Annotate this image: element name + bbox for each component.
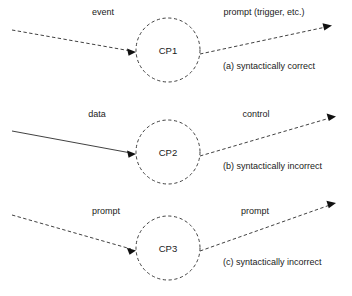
panel-b-caption: (b) syntactically incorrect: [223, 161, 323, 171]
panel-a-caption: (a) syntactically correct: [223, 61, 316, 71]
panel-b-outgoing-edge: [200, 118, 330, 156]
panel-c-caption: (c) syntactically incorrect: [223, 257, 322, 267]
panel-c-incoming-edge: [12, 215, 131, 249]
panel-c: CP3 prompt prompt (c) syntactically inco…: [12, 201, 336, 280]
panel-a-outgoing-edge-label: prompt (trigger, etc.): [223, 7, 304, 17]
panel-b-node-label: CP2: [159, 147, 177, 158]
panel-c-outgoing-arrowhead: [326, 201, 336, 208]
panel-a-incoming-edge: [12, 30, 131, 51]
diagram-canvas: CP1 event prompt (trigger, etc.) (a) syn…: [0, 0, 352, 296]
panel-b-outgoing-arrowhead: [327, 114, 336, 121]
panel-c-incoming-edge-label: prompt: [92, 206, 121, 216]
panel-b-outgoing-edge-label: control: [242, 109, 269, 119]
panel-c-incoming-arrowhead: [127, 248, 136, 255]
diagram-root: CP1 event prompt (trigger, etc.) (a) syn…: [0, 0, 352, 296]
panel-b: CP2 data control (b) syntactically incor…: [12, 109, 336, 184]
panel-a: CP1 event prompt (trigger, etc.) (a) syn…: [12, 7, 332, 82]
panel-c-outgoing-edge-label: prompt: [241, 206, 270, 216]
panel-b-incoming-edge-label: data: [88, 109, 106, 119]
panel-c-node-label: CP3: [159, 243, 177, 254]
panel-a-incoming-edge-label: event: [92, 7, 115, 17]
panel-a-outgoing-edge: [200, 27, 326, 54]
panel-a-node-label: CP1: [159, 45, 177, 56]
panel-b-incoming-edge: [12, 131, 131, 153]
panel-b-incoming-arrowhead: [127, 150, 136, 157]
panel-a-incoming-arrowhead: [127, 48, 136, 55]
panel-a-outgoing-arrowhead: [323, 23, 333, 30]
